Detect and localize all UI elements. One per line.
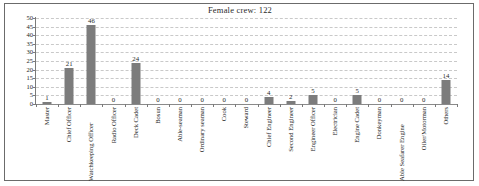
bar-slot: 0: [147, 18, 169, 104]
y-axis-tick-label: 45: [9, 24, 33, 30]
x-axis-label-slot: Deck Cadet: [125, 107, 147, 181]
x-axis-label-slot: Oiler/Motorman: [413, 107, 435, 181]
bar-slot: 0: [213, 18, 235, 104]
y-axis-tick-label: 5: [9, 92, 33, 98]
bar[interactable]: [308, 95, 317, 104]
bar-value-label: 0: [200, 96, 203, 103]
y-axis-tick-label: 50: [9, 15, 33, 21]
bar-value-label: 24: [132, 55, 139, 62]
x-axis-category-label: Steward: [243, 107, 250, 129]
x-axis-category-label: Radio Officer: [110, 107, 117, 143]
x-axis-category-label: Bosun: [154, 107, 161, 124]
plot-area: 12146024000004250500014: [36, 18, 457, 104]
x-axis-category-label: Deck Cadet: [132, 107, 139, 138]
bar-value-label: 0: [223, 96, 226, 103]
bar-value-label: 0: [400, 96, 403, 103]
x-axis-category-label: Chief Engineer: [265, 107, 272, 147]
bar-value-label: 21: [66, 60, 73, 67]
bar-slot: 5: [302, 18, 324, 104]
bar-value-label: 14: [442, 72, 449, 79]
x-axis-category-label: Second Engineer: [287, 107, 294, 152]
y-axis-tick-label: 40: [9, 32, 33, 38]
x-axis-label-slot: Master: [36, 107, 58, 181]
x-axis-label-slot: Bosun: [147, 107, 169, 181]
bar-value-label: 0: [422, 96, 425, 103]
bar-slot: 5: [346, 18, 368, 104]
bar-slot: 0: [191, 18, 213, 104]
x-axis-label-slot: Donkeyman: [368, 107, 390, 181]
bar[interactable]: [286, 101, 295, 104]
bar-value-label: 5: [311, 87, 314, 94]
y-axis-tick-label: 25: [9, 58, 33, 64]
x-axis-category-label: Watchkeeping Officer: [88, 107, 95, 181]
bar-value-label: 46: [88, 17, 95, 24]
bar-value-label: 0: [245, 96, 248, 103]
chart-title: Female crew: 122: [5, 5, 475, 15]
bar-slot: 0: [235, 18, 257, 104]
x-axis-label-slot: Cook: [213, 107, 235, 181]
x-axis-label-slot: Steward: [235, 107, 257, 181]
x-axis-label-slot: Engine Cadet: [346, 107, 368, 181]
bar[interactable]: [264, 97, 273, 104]
y-axis-tick-label: 20: [9, 67, 33, 73]
bar-slot: 0: [102, 18, 124, 104]
x-axis-label-slot: Engineer Officer: [302, 107, 324, 181]
x-axis-label-slot: Others: [435, 107, 457, 181]
bar-slot: 4: [258, 18, 280, 104]
bar-slot: 0: [324, 18, 346, 104]
bar-value-label: 0: [178, 96, 181, 103]
bar[interactable]: [65, 68, 74, 104]
bar-slot: 14: [435, 18, 457, 104]
bar-slot: 0: [413, 18, 435, 104]
bar[interactable]: [131, 63, 140, 104]
x-axis-category-labels: MasterChief OfficerWatchkeeping OfficerR…: [36, 107, 457, 181]
x-axis-label-slot: Ordinary seaman: [191, 107, 213, 181]
bar-value-label: 2: [289, 93, 292, 100]
axis-baseline: [36, 104, 457, 105]
x-axis-category-label: Master: [43, 107, 50, 125]
bar[interactable]: [87, 25, 96, 104]
x-axis-tick-mark: [457, 104, 458, 107]
x-axis-category-label: Donkeyman: [376, 107, 383, 139]
bar-slot: 0: [169, 18, 191, 104]
bar-slot: 24: [125, 18, 147, 104]
y-axis-tick-label: 10: [9, 84, 33, 90]
x-axis-category-label: Chief Officer: [66, 107, 73, 142]
x-axis-label-slot: Watchkeeping Officer: [80, 107, 102, 181]
bar-slot: 21: [58, 18, 80, 104]
bar-value-label: 5: [356, 87, 359, 94]
x-axis-category-label: Electrician: [331, 107, 338, 136]
y-axis-tick-label: 0: [9, 101, 33, 107]
bar-value-label: 0: [333, 96, 336, 103]
x-axis-category-label: Engine Cadet: [354, 107, 361, 143]
x-axis-category-label: Ordinary seaman: [198, 107, 205, 152]
bar-value-label: 0: [156, 96, 159, 103]
bar-value-label: 0: [378, 96, 381, 103]
x-axis-category-label: Engineer Officer: [309, 107, 316, 151]
bar-slot: 0: [368, 18, 390, 104]
bar-slot: 46: [80, 18, 102, 104]
y-axis-tick-label: 15: [9, 75, 33, 81]
bar[interactable]: [441, 80, 450, 104]
y-axis-tick-label: 30: [9, 49, 33, 55]
bar-value-label: 4: [267, 89, 270, 96]
x-axis-label-slot: Able-seaman: [169, 107, 191, 181]
bar-value-label: 1: [45, 94, 48, 101]
x-axis-label-slot: Electrician: [324, 107, 346, 181]
y-axis-tick-labels: 05101520253035404550: [5, 18, 33, 104]
x-axis-label-slot: Radio Officer: [102, 107, 124, 181]
bar-slot: 2: [280, 18, 302, 104]
x-axis-category-label: Able-seaman: [176, 107, 183, 142]
bar[interactable]: [353, 95, 362, 104]
bar-slot: 1: [36, 18, 58, 104]
bar[interactable]: [43, 102, 52, 104]
bar-value-label: 0: [112, 96, 115, 103]
x-axis-label-slot: Chief Officer: [58, 107, 80, 181]
x-axis-category-label: Cook: [221, 107, 228, 121]
x-axis-category-label: Oiler/Motorman: [420, 107, 427, 150]
x-axis-label-slot: Able Seafarer Engine: [391, 107, 413, 181]
x-axis-label-slot: Chief Engineer: [258, 107, 280, 181]
x-axis-category-label: Others: [442, 107, 449, 125]
x-axis-label-slot: Second Engineer: [280, 107, 302, 181]
x-axis-category-label: Able Seafarer Engine: [398, 107, 405, 181]
